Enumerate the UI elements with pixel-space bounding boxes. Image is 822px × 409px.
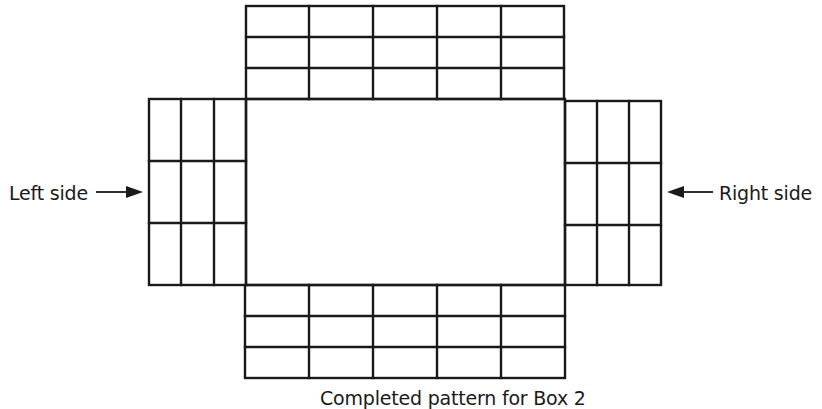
left-side-label: Left side	[9, 182, 88, 204]
top-panel-grid	[246, 6, 564, 99]
right-panel-grid	[565, 101, 661, 285]
left-panel-grid	[149, 99, 246, 285]
bottom-panel-grid	[245, 285, 565, 378]
right-arrow-icon	[667, 186, 713, 198]
right-side-label: Right side	[719, 182, 812, 204]
left-arrow-icon	[96, 186, 143, 198]
figure-caption: Completed pattern for Box 2	[320, 387, 586, 409]
center-panel	[246, 99, 565, 285]
